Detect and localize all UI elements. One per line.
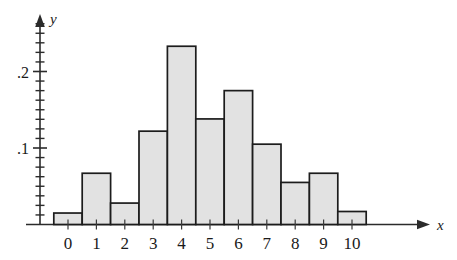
x-tick-label: 1 — [92, 234, 101, 253]
histogram-bar — [82, 173, 110, 224]
y-axis-tick-labels: .2.1 — [17, 64, 29, 158]
x-tick-label: 3 — [149, 234, 158, 253]
histogram-bar — [196, 119, 224, 225]
x-tick-label: 10 — [344, 234, 361, 253]
x-tick-label: 4 — [177, 234, 186, 253]
x-tick-label: 8 — [291, 234, 300, 253]
histogram-chart: y x .2.1 012345678910 — [0, 0, 457, 260]
y-tick-label: .1 — [17, 140, 29, 157]
x-tick-label: 6 — [234, 234, 243, 253]
y-axis-ticks — [33, 24, 47, 215]
x-tick-label: 9 — [319, 234, 328, 253]
y-tick-label: .2 — [17, 64, 29, 81]
histogram-bar — [167, 46, 195, 224]
x-tick-label: 2 — [121, 234, 130, 253]
histogram-figure: y x .2.1 012345678910 — [0, 0, 457, 260]
x-axis-label: x — [436, 217, 444, 233]
histogram-bar — [139, 131, 167, 224]
histogram-bar — [281, 182, 309, 224]
histogram-bar — [309, 173, 337, 224]
x-tick-label: 5 — [206, 234, 215, 253]
y-axis-arrow-icon — [35, 14, 45, 27]
x-axis-tick-labels: 012345678910 — [64, 234, 361, 253]
histogram-bar — [224, 91, 252, 225]
histogram-bar — [253, 144, 281, 224]
histogram-bars — [54, 46, 366, 224]
x-tick-label: 7 — [263, 234, 272, 253]
y-axis-label: y — [48, 11, 57, 27]
x-axis-arrow-icon — [417, 220, 430, 230]
x-tick-label: 0 — [64, 234, 73, 253]
